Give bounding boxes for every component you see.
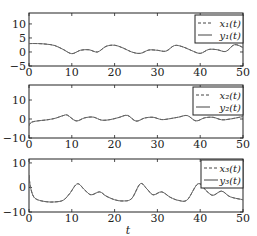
y-tick-label: −5: [10, 60, 26, 73]
y-tick-label: 0: [19, 113, 26, 126]
x-tick-label: 30: [150, 138, 164, 151]
x-tick-label: 0: [26, 66, 33, 79]
y-tick-label: −10: [3, 206, 26, 219]
legend-label: y₁(t): [219, 30, 242, 41]
legend: x₁(t)y₁(t): [195, 15, 243, 43]
legend-label: x₂(t): [220, 90, 242, 101]
x-tick-label: 20: [108, 212, 122, 225]
x-tick-label: 10: [65, 212, 79, 225]
x-tick-label: 50: [236, 138, 250, 151]
x-tick-label: 30: [150, 212, 164, 225]
x-tick-label: 50: [236, 212, 250, 225]
x-tick-label: 0: [26, 138, 33, 151]
x-tick-label: 50: [236, 66, 250, 79]
x-tick-label: 0: [26, 212, 33, 225]
y-tick-label: 10: [12, 94, 26, 107]
subplot-3: 01020304050−10010x₃(t)y₃(t)t: [3, 157, 250, 236]
x-axis-label: t: [126, 224, 131, 236]
x-tick-label: 20: [108, 138, 122, 151]
y-tick-label: −10: [3, 132, 26, 145]
legend-label: y₂(t): [219, 102, 242, 113]
y-tick-label: 0: [19, 181, 26, 194]
subplot-2: 01020304050−10010x₂(t)y₂(t): [3, 85, 250, 151]
legend-label: x₁(t): [220, 18, 242, 29]
legend-label: x₃(t): [220, 163, 242, 174]
subplot-1: 01020304050−50510x₁(t)y₁(t): [10, 13, 250, 79]
x-tick-label: 40: [193, 138, 207, 151]
x-tick-label: 40: [193, 212, 207, 225]
y-tick-label: 5: [19, 32, 26, 45]
x-tick-label: 40: [193, 66, 207, 79]
legend: x₂(t)y₂(t): [193, 87, 243, 115]
x-tick-label: 20: [108, 66, 122, 79]
y-tick-label: 10: [12, 18, 26, 31]
chart-figure: 01020304050−50510x₁(t)y₁(t)01020304050−1…: [0, 0, 257, 236]
y-tick-label: 0: [19, 46, 26, 59]
legend: x₃(t)y₃(t): [201, 160, 243, 188]
x-tick-label: 10: [65, 138, 79, 151]
x-tick-label: 30: [150, 66, 164, 79]
x-tick-label: 10: [65, 66, 79, 79]
legend-label: y₃(t): [219, 175, 242, 186]
y-tick-label: 10: [12, 157, 26, 170]
